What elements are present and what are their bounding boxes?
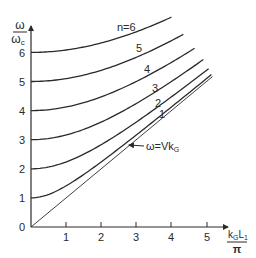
y-tick-labels: 0 1 2 3 4 5 6	[19, 47, 25, 233]
curve-n-3	[31, 60, 203, 140]
curve-n-6	[31, 17, 171, 52]
x-tick-label: 1	[63, 231, 69, 243]
x-tick-labels: 1 2 3 4 5	[63, 231, 210, 243]
curve-label-4: 4	[144, 63, 150, 75]
annotation-arrow	[129, 145, 144, 146]
annotation-text: ω=VkG	[146, 140, 179, 153]
x-axis-label-denominator: π	[233, 243, 242, 255]
curve-label-5: 5	[136, 42, 142, 54]
x-tick-label: 4	[168, 231, 174, 243]
dispersion-chart: 1 2 3 4 5 0 1 2 3 4 5 6 ω ωc kGL1 π n=6 …	[0, 0, 256, 258]
y-tick-label: 2	[19, 163, 25, 175]
curve-label-3: 3	[152, 82, 158, 94]
asymptote-annotation: ω=VkG	[129, 140, 179, 153]
x-axis-label-numerator: kGL1	[228, 229, 248, 241]
x-tick-label: 5	[204, 231, 210, 243]
x-tick-label: 3	[133, 231, 139, 243]
curve--Vk-G	[31, 77, 212, 227]
curve-label-n6: n=6	[117, 21, 136, 33]
y-tick-label: 4	[19, 105, 25, 117]
y-axis-label-numerator: ω	[15, 18, 24, 32]
y-tick-label: 5	[19, 76, 25, 88]
y-tick-label: 3	[19, 134, 25, 146]
y-axis-label-denominator: ωc	[11, 32, 24, 47]
x-ticks	[66, 222, 207, 227]
x-axis-label: kGL1 π	[227, 229, 248, 255]
curve-label-1: 1	[159, 108, 165, 120]
y-axis-label: ω ωc	[11, 18, 27, 47]
curves	[31, 17, 212, 227]
x-tick-label: 2	[98, 231, 104, 243]
y-tick-label: 6	[19, 47, 25, 59]
origin-label: 0	[19, 221, 25, 233]
y-tick-label: 1	[19, 192, 25, 204]
